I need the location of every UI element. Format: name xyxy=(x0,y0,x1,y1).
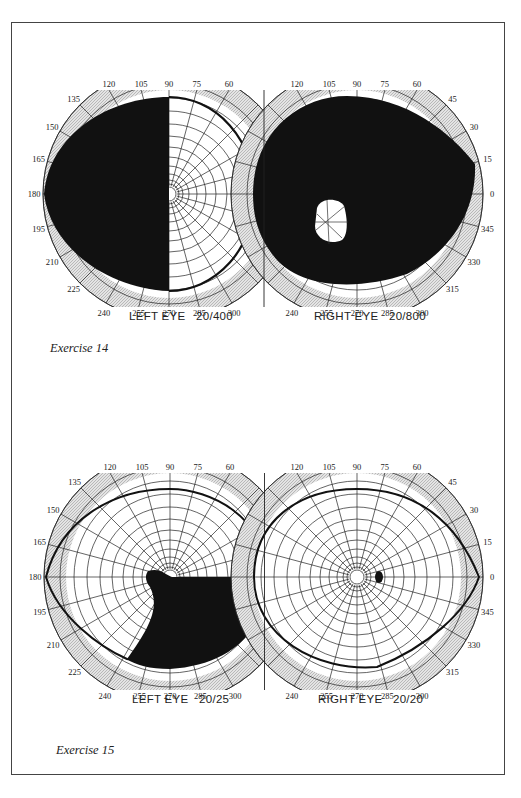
svg-text:105: 105 xyxy=(135,79,148,89)
svg-text:15: 15 xyxy=(483,154,492,164)
svg-text:0: 0 xyxy=(490,572,494,582)
svg-text:30: 30 xyxy=(470,505,479,515)
svg-text:135: 135 xyxy=(68,477,81,487)
svg-text:240: 240 xyxy=(98,691,111,701)
blind-spot xyxy=(375,571,383,583)
svg-text:165: 165 xyxy=(33,537,46,547)
svg-text:90: 90 xyxy=(165,79,174,89)
svg-text:60: 60 xyxy=(226,462,235,472)
svg-text:150: 150 xyxy=(47,505,60,515)
svg-text:30: 30 xyxy=(470,122,479,132)
svg-text:90: 90 xyxy=(353,79,362,89)
svg-text:180: 180 xyxy=(29,572,42,582)
svg-text:120: 120 xyxy=(291,462,304,472)
ex14-right-eye-label: RIGHT EYE 20/800 xyxy=(314,310,426,322)
svg-text:135: 135 xyxy=(67,94,80,104)
svg-text:210: 210 xyxy=(47,640,60,650)
svg-text:345: 345 xyxy=(481,607,494,617)
svg-text:105: 105 xyxy=(136,462,149,472)
ex15-right-eye-plate: 1201059075602402552702853004530150345330… xyxy=(231,451,494,703)
ex14-right-eye-plate: 1201059075602402552702853004530150345330… xyxy=(231,68,494,320)
svg-text:105: 105 xyxy=(323,79,336,89)
svg-text:165: 165 xyxy=(32,154,45,164)
svg-text:45: 45 xyxy=(448,94,457,104)
svg-text:150: 150 xyxy=(46,122,59,132)
svg-text:315: 315 xyxy=(446,667,459,677)
svg-text:105: 105 xyxy=(323,462,336,472)
svg-text:120: 120 xyxy=(291,79,304,89)
svg-text:60: 60 xyxy=(413,462,422,472)
svg-text:240: 240 xyxy=(285,691,298,701)
svg-text:330: 330 xyxy=(468,640,481,650)
ex15-right-eye-label: RIGHT EYE 20/20 xyxy=(318,693,423,705)
svg-text:45: 45 xyxy=(448,477,457,487)
svg-text:120: 120 xyxy=(104,462,117,472)
ex14-caption: Exercise 14 xyxy=(50,341,108,356)
svg-text:60: 60 xyxy=(413,79,422,89)
svg-text:0: 0 xyxy=(490,189,494,199)
svg-text:120: 120 xyxy=(103,79,116,89)
visual-field-charts: 1201059075602402552702853001351501651801… xyxy=(0,0,521,798)
svg-text:90: 90 xyxy=(166,462,175,472)
ex15-left-eye-label: LEFT EYE 20/25 xyxy=(132,693,229,705)
svg-text:300: 300 xyxy=(229,691,242,701)
svg-text:240: 240 xyxy=(285,308,298,318)
svg-text:180: 180 xyxy=(28,189,41,199)
svg-text:60: 60 xyxy=(225,79,234,89)
svg-text:75: 75 xyxy=(381,462,390,472)
svg-text:75: 75 xyxy=(381,79,390,89)
svg-text:225: 225 xyxy=(67,284,80,294)
svg-text:195: 195 xyxy=(32,224,45,234)
svg-text:15: 15 xyxy=(483,537,492,547)
svg-text:75: 75 xyxy=(194,462,203,472)
svg-text:345: 345 xyxy=(481,224,494,234)
svg-text:90: 90 xyxy=(353,462,362,472)
svg-text:330: 330 xyxy=(468,257,481,267)
svg-text:210: 210 xyxy=(46,257,59,267)
svg-text:195: 195 xyxy=(33,607,46,617)
ex15-caption: Exercise 15 xyxy=(56,743,114,758)
svg-text:225: 225 xyxy=(68,667,81,677)
svg-text:315: 315 xyxy=(446,284,459,294)
svg-text:75: 75 xyxy=(193,79,202,89)
ex14-left-eye-label: LEFT EYE 20/400 xyxy=(129,310,233,322)
svg-text:240: 240 xyxy=(97,308,110,318)
